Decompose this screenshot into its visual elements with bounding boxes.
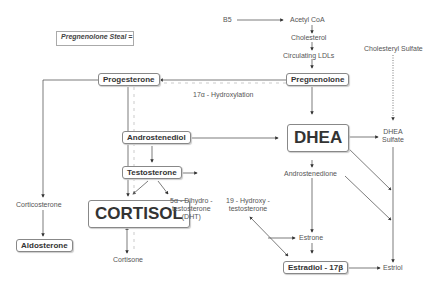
node-dht: 5α - Dihydro - testosterone (DHT) — [170, 197, 213, 221]
hydroxy-t-line1: 19 - Hydroxy - — [226, 197, 270, 205]
node-acetyl-coa: Acetyl CoA — [290, 16, 325, 24]
node-b5: B5 — [223, 16, 232, 24]
node-dhea-sulfate: DHEA Sulfate — [382, 128, 404, 144]
node-19-hydroxy-testosterone: 19 - Hydroxy - testosterone — [226, 197, 270, 213]
node-estriol: Estriol — [383, 264, 402, 272]
pregnenolone-steal-legend: Pregnenolone Steal = — [56, 31, 134, 46]
dhea-sulfate-line2: Sulfate — [382, 136, 404, 144]
node-corticosterone: Corticosterone — [16, 201, 62, 209]
node-cholesterol: Cholesterol — [291, 34, 326, 42]
node-estrone: Estrone — [299, 234, 323, 242]
legend-label: Pregnenolone Steal = — [61, 33, 132, 40]
node-dhea: DHEA — [287, 124, 349, 152]
node-aldosterone: Aldosterone — [16, 239, 73, 252]
node-androstenedione: Androstenedione — [284, 170, 337, 178]
dhea-sulfate-line1: DHEA — [382, 128, 404, 136]
node-cortisone: Cortisone — [113, 256, 143, 264]
node-estradiol-17b: Estradiol - 17β — [283, 261, 348, 274]
node-progesterone: Progesterone — [98, 73, 160, 86]
dht-line3: (DHT) — [170, 213, 213, 221]
node-androstenediol: Androstenediol — [122, 131, 191, 144]
node-circulating-ldls: Circulating LDLs — [283, 52, 334, 60]
node-pregnenolone: Pregnenolone — [286, 73, 349, 86]
dht-line1: 5α - Dihydro - — [170, 197, 213, 205]
node-testosterone: Testosterone — [122, 166, 182, 179]
label-17a-hydroxylation: 17α - Hydroxylation — [193, 91, 253, 99]
hydroxy-t-line2: testosterone — [226, 205, 270, 213]
dht-line2: testosterone — [170, 205, 213, 213]
node-cholesteryl-sulfate: Cholesteryl Sulfate — [364, 45, 423, 53]
